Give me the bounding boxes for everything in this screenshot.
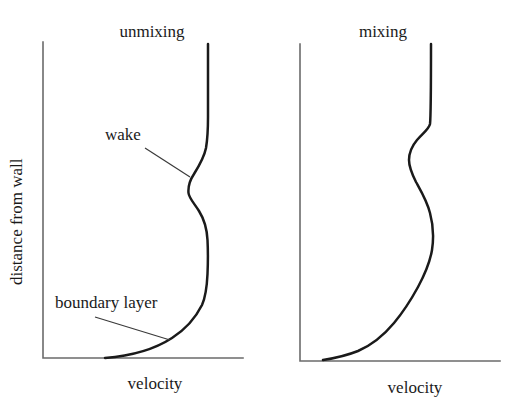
panel-mixing: mixing velocity — [300, 22, 500, 397]
left-panel-title: unmixing — [119, 22, 185, 41]
left-x-axis-title: velocity — [128, 374, 183, 393]
right-panel-title: mixing — [359, 22, 408, 41]
annotation-label-boundary-layer: boundary layer — [55, 293, 158, 312]
velocity-profile-figure: unmixing velocity wake boundary layer di… — [0, 0, 516, 411]
panel-unmixing: unmixing velocity wake boundary layer — [43, 22, 243, 393]
annotation-leader-boundary-layer — [95, 317, 170, 340]
right-x-axis-title: velocity — [388, 378, 443, 397]
annotation-leader-wake — [145, 148, 190, 177]
annotation-label-wake: wake — [105, 125, 141, 144]
figure-root: unmixing velocity wake boundary layer di… — [0, 0, 516, 411]
right-profile-curve — [323, 44, 433, 360]
y-axis-title: distance from wall — [7, 158, 26, 285]
